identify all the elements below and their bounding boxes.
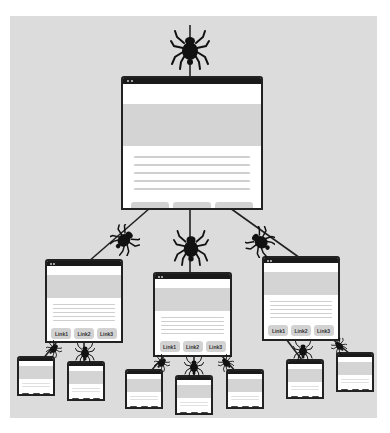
grandchild-page-window-5 — [226, 369, 264, 409]
link-button-2[interactable]: Link2 — [173, 202, 211, 210]
link-button-1[interactable]: Link1 — [51, 328, 71, 339]
grandchild-page-window-7 — [336, 352, 374, 392]
window-titlebar — [47, 261, 121, 266]
link-button-1[interactable]: Link1 — [160, 341, 180, 352]
link-button-1[interactable]: Link1 — [131, 202, 169, 210]
child-page-window-3: Link1 Link2 Link3 — [262, 256, 340, 341]
page-links: Link1 Link2 Link3 — [123, 202, 261, 210]
link-button-2[interactable]: Link2 — [74, 328, 94, 339]
grandchild-page-window-3 — [125, 369, 163, 409]
spider-icon — [245, 226, 275, 258]
spider-icon — [218, 354, 234, 372]
link-button-2[interactable]: Link2 — [291, 325, 311, 336]
link-button-2[interactable]: Link2 — [183, 341, 203, 352]
window-titlebar — [123, 78, 261, 84]
spider-icon — [110, 224, 140, 256]
page-text-lines — [123, 146, 261, 202]
page-header — [123, 84, 261, 104]
spider-icon — [293, 340, 313, 362]
spider-icon — [154, 354, 170, 372]
link-button-3[interactable]: Link3 — [97, 328, 117, 339]
grandchild-page-window-2 — [67, 361, 105, 401]
link-button-3[interactable]: Link3 — [206, 341, 226, 352]
page-hero — [123, 104, 261, 146]
link-button-1[interactable]: Link1 — [268, 325, 288, 336]
child-page-window-1: Link1 Link2 Link3 — [45, 259, 123, 343]
child-page-window-2: Link1 Link2 Link3 — [153, 272, 232, 357]
grandchild-page-window-6 — [286, 359, 324, 399]
spider-icon — [46, 340, 62, 358]
spider-icon — [184, 356, 204, 378]
root-page-window: Link1 Link2 Link3 — [121, 76, 263, 210]
link-button-3[interactable]: Link3 — [215, 202, 253, 210]
window-titlebar — [264, 258, 338, 263]
spider-icon — [170, 25, 210, 75]
spider-icon — [331, 337, 347, 355]
link-button-3[interactable]: Link3 — [314, 325, 334, 336]
grandchild-page-window-4 — [175, 375, 213, 415]
spider-icon — [173, 226, 209, 270]
spider-icon — [75, 342, 95, 364]
window-titlebar — [155, 274, 230, 279]
grandchild-page-window-1 — [17, 356, 55, 396]
